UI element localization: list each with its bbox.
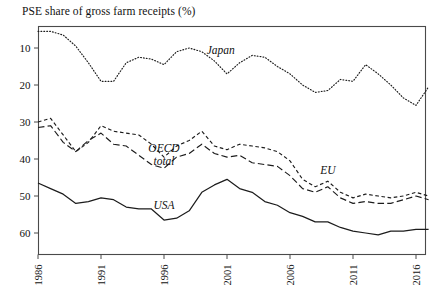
y-tick-label: 10: [20, 42, 32, 54]
x-tick-label: 1996: [159, 265, 170, 286]
series-annotations: JapanOECDtotalEUUSA: [148, 44, 336, 211]
chart-figure: PSE share of gross farm receipts (%) 605…: [0, 0, 440, 300]
x-tick-label: 2016: [411, 265, 422, 286]
y-tick-label: 40: [20, 153, 32, 165]
series-label-japan: Japan: [207, 44, 235, 57]
data-series-group: [38, 31, 429, 235]
x-tick-label: 1986: [33, 265, 44, 286]
x-tick-label: 2011: [348, 265, 359, 286]
y-tick-label: 20: [20, 79, 32, 91]
plot-frame: [39, 27, 426, 255]
x-tick-label: 2006: [285, 265, 296, 286]
line-chart-plot: 605040302010 198619911996200120062011201…: [0, 0, 440, 300]
series-label-eu: EU: [319, 164, 336, 176]
y-tick-label: 60: [20, 227, 32, 239]
series-line-eu: [38, 118, 429, 198]
series-line-japan: [38, 31, 429, 105]
series-label-oecd-total-line2: total: [153, 155, 174, 167]
y-axis-ticks: 605040302010: [20, 42, 39, 239]
x-axis-ticks: 1986199119962001200620112016: [33, 255, 422, 286]
y-tick-label: 50: [20, 190, 32, 202]
series-label-usa: USA: [153, 199, 175, 211]
series-line-oecd-total: [38, 126, 429, 204]
series-line-usa: [38, 179, 429, 235]
x-tick-label: 1991: [96, 265, 107, 286]
series-label-oecd-total: OECD: [148, 142, 180, 154]
x-tick-label: 2001: [222, 265, 233, 286]
y-tick-label: 30: [20, 116, 32, 128]
